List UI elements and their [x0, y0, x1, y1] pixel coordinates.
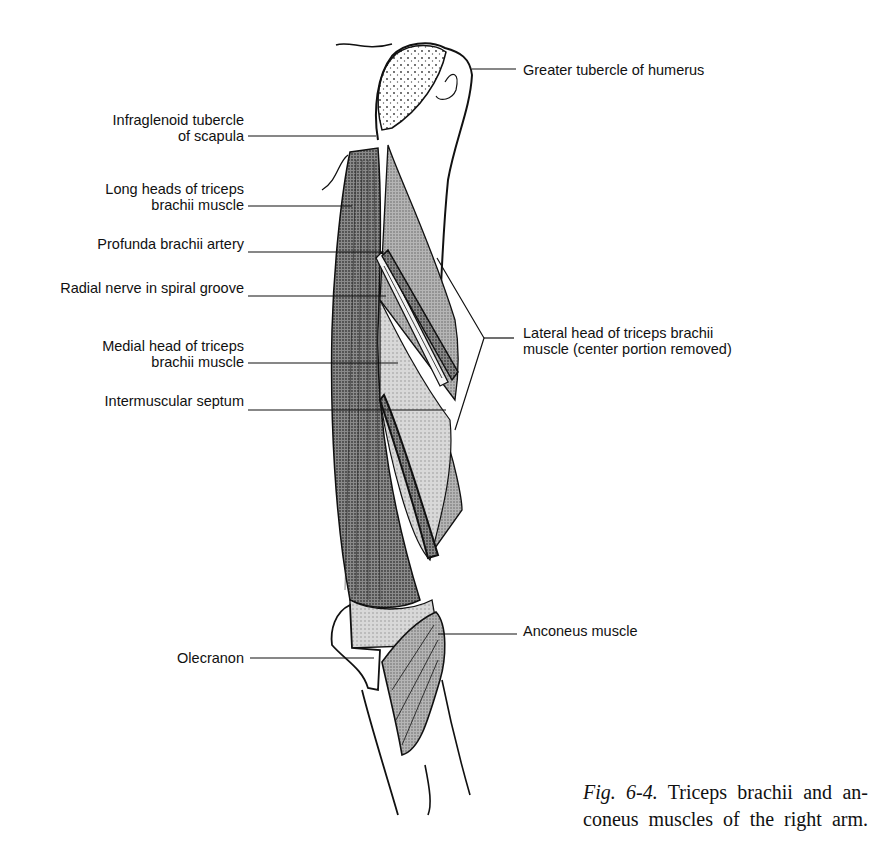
- label-line: Radial nerve in spiral groove: [60, 280, 244, 296]
- label-medial-head-triceps: Medial head of triceps brachii muscle: [102, 338, 244, 370]
- figure-caption: Fig. 6-4. Triceps brachii and an- coneus…: [583, 779, 868, 833]
- label-line: brachii muscle: [105, 197, 244, 213]
- label-anconeus-muscle: Anconeus muscle: [523, 623, 637, 639]
- label-line: Intermuscular septum: [105, 393, 244, 409]
- label-olecranon: Olecranon: [177, 650, 244, 666]
- label-radial-nerve: Radial nerve in spiral groove: [60, 280, 244, 296]
- label-line: Lateral head of triceps brachii: [523, 325, 732, 341]
- label-infraglenoid-tubercle: Infraglenoid tubercle of scapula: [113, 112, 244, 144]
- label-line: muscle (center portion removed): [523, 341, 732, 357]
- label-line: Medial head of triceps: [102, 338, 244, 354]
- label-line: brachii muscle: [102, 354, 244, 370]
- caption-number: Fig. 6-4.: [583, 781, 658, 803]
- label-line: Long heads of triceps: [105, 181, 244, 197]
- caption-line-2: coneus muscles of the right arm.: [583, 806, 868, 833]
- label-line: Anconeus muscle: [523, 623, 637, 639]
- elbow-region: [332, 600, 470, 815]
- label-line: Greater tubercle of humerus: [523, 62, 704, 78]
- label-line: of scapula: [113, 128, 244, 144]
- label-line: Infraglenoid tubercle: [113, 112, 244, 128]
- label-long-heads-triceps: Long heads of triceps brachii muscle: [105, 181, 244, 213]
- label-lateral-head-triceps: Lateral head of triceps brachii muscle (…: [523, 325, 732, 357]
- label-intermuscular-septum: Intermuscular septum: [105, 393, 244, 409]
- label-line: Olecranon: [177, 650, 244, 666]
- label-line: Profunda brachii artery: [97, 236, 244, 252]
- caption-text-1: Triceps brachii and an-: [668, 781, 868, 803]
- label-profunda-brachii-artery: Profunda brachii artery: [97, 236, 244, 252]
- label-greater-tubercle: Greater tubercle of humerus: [523, 62, 704, 78]
- caption-line-1: Fig. 6-4. Triceps brachii and an-: [583, 779, 868, 806]
